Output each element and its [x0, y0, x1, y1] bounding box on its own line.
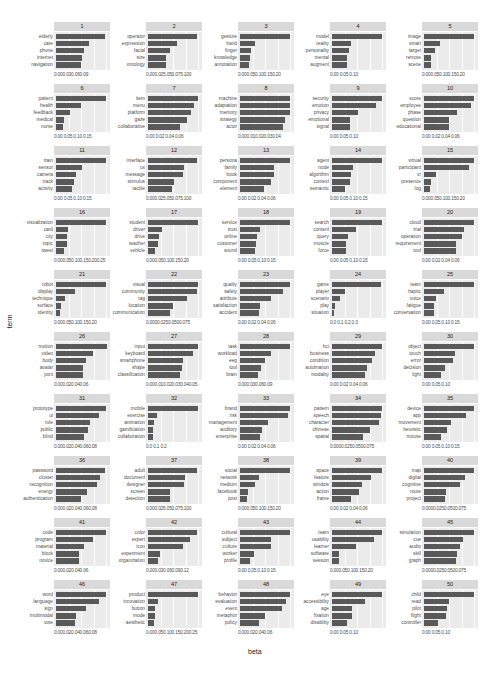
facet-strip-label: 35: [422, 394, 478, 403]
x-tick-labels: 0.000.010.020.030.04: [238, 134, 294, 139]
term-label: learner: [269, 544, 329, 550]
term-label: eye: [269, 592, 329, 598]
x-tick-labels: 0.00 0.05 0.10 0.15: [330, 258, 386, 263]
bar-public: [56, 427, 88, 433]
bar-employee: [424, 103, 471, 109]
term-label: social: [177, 468, 237, 474]
x-tick-labels: 0.00 0.05 0.10: [422, 630, 478, 635]
bar-fixation: [332, 613, 352, 619]
term-label: heuristic: [361, 427, 421, 433]
term-label: vr: [361, 172, 421, 178]
term-label: communication: [85, 310, 145, 316]
term-label: drive: [85, 234, 145, 240]
term-label: activity: [0, 186, 53, 192]
term-label: movement: [361, 420, 421, 426]
term-label: visualization: [0, 220, 53, 226]
facet-strip-label: 19: [330, 208, 386, 217]
facet-strip-label: 13: [238, 146, 294, 155]
facet-strip-label: 39: [330, 456, 386, 465]
term-label: health: [0, 103, 53, 109]
x-tick-labels: 0.000.020.040.060.08: [54, 506, 110, 511]
term-label: fatigue: [361, 303, 421, 309]
term-label: display: [0, 289, 53, 295]
term-label: material: [0, 544, 53, 550]
term-label: teacher: [85, 241, 145, 247]
bar-vote: [56, 620, 75, 626]
bar-mouse: [424, 434, 441, 440]
bar-drive: [148, 234, 159, 240]
bar-operation: [424, 234, 462, 240]
y-axis-label: term: [6, 315, 13, 329]
facet-strip-label: 48: [238, 580, 294, 589]
facet-strip-label: 6: [54, 84, 110, 93]
term-label: touch: [361, 351, 421, 357]
x-tick-labels: 0.000.050.100.150.200.25: [146, 630, 202, 635]
term-label: track: [0, 179, 53, 185]
term-label: product: [85, 592, 145, 598]
x-tick-labels: 0.0000.0250.0500.075: [330, 444, 386, 449]
bar-medium: [240, 482, 255, 488]
term-label: operation: [361, 234, 421, 240]
term-label: service: [177, 220, 237, 226]
facet-strip-label: 37: [146, 456, 202, 465]
term-label: student: [85, 220, 145, 226]
term-label: detection: [85, 496, 145, 502]
term-label: brand: [177, 406, 237, 412]
term-label: classification: [85, 372, 145, 378]
facet-strip-label: 21: [54, 270, 110, 279]
bar-tool: [424, 248, 456, 254]
term-label: internet: [0, 55, 53, 61]
term-label: flight: [361, 613, 421, 619]
term-label: tactile: [85, 186, 145, 192]
bar-identity: [56, 310, 60, 316]
term-label: post: [177, 496, 237, 502]
bar-finger: [240, 48, 251, 54]
x-tick-labels: 0.000.050.100.150.20: [146, 258, 202, 263]
facet-strip-label: 29: [330, 332, 386, 341]
term-label: care: [0, 41, 53, 47]
term-label: image: [361, 34, 421, 40]
term-label: score: [361, 96, 421, 102]
bar-medical: [56, 117, 64, 123]
x-tick-labels: 0.000.030.060.090.12: [146, 568, 202, 573]
term-label: topic: [0, 241, 53, 247]
term-label: animation: [85, 420, 145, 426]
term-label: medical: [0, 117, 53, 123]
term-label: risk: [177, 413, 237, 419]
term-label: visual: [85, 282, 145, 288]
term-label: force: [269, 248, 329, 254]
term-label: cognitive: [361, 482, 421, 488]
bar-context: [332, 179, 350, 185]
term-label: adaptation: [177, 103, 237, 109]
term-label: chinese: [269, 427, 329, 433]
term-label: fixation: [269, 613, 329, 619]
bar-element: [240, 186, 264, 192]
bar-energy: [56, 489, 87, 495]
bar-avatar: [56, 365, 83, 371]
bar-audio: [424, 544, 460, 550]
bar-reality: [332, 41, 351, 47]
bar-mode: [148, 613, 155, 619]
term-label: personality: [269, 48, 329, 54]
x-tick-labels: 0.0 0.1 0.2: [146, 444, 202, 449]
term-label: participant: [361, 165, 421, 171]
bar-multimodal: [56, 613, 76, 619]
term-label: video: [0, 351, 53, 357]
bar-topic: [56, 241, 67, 247]
term-label: vote: [0, 620, 53, 626]
facet-strip-label: 26: [54, 332, 110, 341]
term-label: city: [0, 234, 53, 240]
x-tick-labels: 0.000.050.100.150.200.25: [54, 258, 110, 263]
term-label: robot: [0, 282, 53, 288]
term-label: workload: [177, 351, 237, 357]
bar-aesthetic: [148, 620, 154, 626]
x-tick-labels: 0.0000.0250.0500.075: [422, 568, 478, 573]
term-label: book: [177, 172, 237, 178]
term-label: vehicle: [85, 248, 145, 254]
term-label: space: [269, 468, 329, 474]
term-label: quality: [177, 282, 237, 288]
term-label: menu: [85, 103, 145, 109]
term-label: expression: [85, 41, 145, 47]
term-label: evaluation: [177, 599, 237, 605]
term-label: safety: [177, 289, 237, 295]
